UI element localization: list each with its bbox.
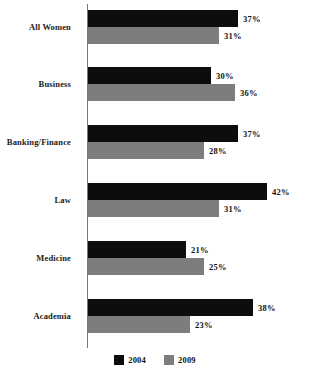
bar-group: Banking/Finance 37% 28% <box>0 119 310 173</box>
bar-group: All Women 37% 31% <box>0 4 310 58</box>
bar-group: Medicine 21% 25% <box>0 235 310 289</box>
category-label: Business <box>0 79 71 89</box>
bar-value-2004: 42% <box>272 187 290 197</box>
legend-swatch-icon <box>164 355 174 365</box>
bar-value-2009: 25% <box>209 262 227 272</box>
bar-2009 <box>88 142 204 159</box>
bar-value-2009: 28% <box>209 146 227 156</box>
legend-item-2004: 2004 <box>114 355 146 365</box>
bar-value-2004: 21% <box>191 245 209 255</box>
bar-2009 <box>88 84 235 101</box>
legend-label-2009: 2009 <box>178 355 196 365</box>
bar-2004 <box>88 67 211 84</box>
legend-item-2009: 2009 <box>164 355 196 365</box>
category-label: Law <box>0 195 71 205</box>
bar-2004 <box>88 183 267 200</box>
bar-value-2004: 37% <box>243 14 261 24</box>
chart-legend: 2004 2009 <box>0 352 310 368</box>
bar-2004 <box>88 299 253 316</box>
bar-2004 <box>88 125 238 142</box>
bar-group: Law 42% 31% <box>0 177 310 231</box>
category-label: Academia <box>0 311 71 321</box>
bar-value-2009: 31% <box>224 204 242 214</box>
legend-swatch-icon <box>114 355 124 365</box>
bar-2009 <box>88 200 219 217</box>
plot-area: All Women 37% 31% Business 30% 36% <box>0 0 310 348</box>
category-label: Banking/Finance <box>0 137 71 147</box>
bar-value-2009: 36% <box>240 88 258 98</box>
bar-value-2009: 23% <box>195 320 213 330</box>
bar-2009 <box>88 27 219 44</box>
category-label: Medicine <box>0 253 71 263</box>
bar-2004 <box>88 10 238 27</box>
bar-value-2004: 38% <box>258 303 276 313</box>
bar-value-2009: 31% <box>224 31 242 41</box>
bar-2009 <box>88 316 190 333</box>
category-label: All Women <box>0 22 71 32</box>
bar-value-2004: 37% <box>243 129 261 139</box>
bar-2004 <box>88 241 186 258</box>
bar-value-2004: 30% <box>216 71 234 81</box>
legend-label-2004: 2004 <box>128 355 146 365</box>
bar-chart: All Women 37% 31% Business 30% 36% <box>0 0 310 371</box>
bar-2009 <box>88 258 204 275</box>
bar-group: Academia 38% 23% <box>0 293 310 347</box>
bar-group: Business 30% 36% <box>0 61 310 115</box>
